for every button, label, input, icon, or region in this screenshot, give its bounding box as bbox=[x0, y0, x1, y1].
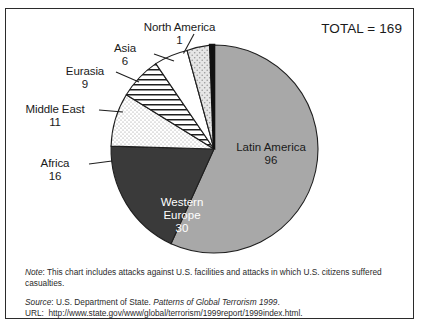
url-text[interactable]: http://www.state.gov/www/global/terroris… bbox=[49, 308, 303, 318]
note-prefix: Note bbox=[25, 267, 43, 277]
label-eurasia-value: 9 bbox=[56, 78, 114, 91]
label-middle-east-name: Middle East bbox=[14, 103, 96, 116]
label-western-europe-name1: Western bbox=[139, 196, 225, 209]
leader-line-eurasia bbox=[116, 72, 139, 82]
source-text: : U.S. Department of State. bbox=[51, 297, 153, 307]
chart-footnotes: Note: This chart includes attacks agains… bbox=[25, 267, 408, 320]
total-label: TOTAL = 169 bbox=[321, 21, 402, 36]
label-western-europe-name2: Europe bbox=[139, 209, 225, 222]
source-line: Source: U.S. Department of State. Patter… bbox=[25, 297, 408, 320]
source-prefix: Source bbox=[25, 297, 51, 307]
source-title: Patterns of Global Terrorism 1999 bbox=[153, 297, 277, 307]
note-line: Note: This chart includes attacks agains… bbox=[25, 267, 408, 290]
label-africa-name: Africa bbox=[26, 157, 84, 170]
label-western-europe-value: 30 bbox=[139, 222, 225, 235]
label-africa-value: 16 bbox=[26, 170, 84, 183]
chart-frame: TOTAL = 169 North America 1 Asia 6 Euras… bbox=[5, 8, 414, 319]
label-middle-east-value: 11 bbox=[14, 116, 96, 129]
label-western-europe: Western Europe 30 bbox=[139, 196, 225, 235]
source-suffix: . bbox=[277, 297, 279, 307]
leader-line-africa bbox=[89, 161, 112, 164]
label-north-america-name: North America bbox=[112, 21, 247, 34]
label-latin-america-value: 96 bbox=[223, 154, 319, 167]
label-asia-name: Asia bbox=[99, 42, 151, 55]
url-prefix: URL: bbox=[25, 308, 44, 318]
label-eurasia-name: Eurasia bbox=[56, 65, 114, 78]
label-latin-america: Latin America 96 bbox=[223, 141, 319, 167]
pie-chart-area: TOTAL = 169 North America 1 Asia 6 Euras… bbox=[6, 9, 415, 254]
label-latin-america-name: Latin America bbox=[223, 141, 319, 154]
label-asia: Asia 6 bbox=[99, 42, 151, 67]
note-text: : This chart includes attacks against U.… bbox=[25, 267, 382, 288]
label-middle-east: Middle East 11 bbox=[14, 103, 96, 128]
label-eurasia: Eurasia 9 bbox=[56, 65, 114, 90]
label-africa: Africa 16 bbox=[26, 157, 84, 182]
